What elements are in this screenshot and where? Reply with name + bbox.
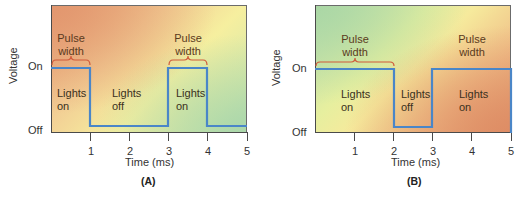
region-text: on	[459, 101, 488, 114]
region-text: off	[112, 100, 141, 113]
pulse-width-text: width	[338, 46, 372, 59]
region-label-lights-off: Lights off	[401, 88, 430, 114]
pulse-width-label: Pulse width	[455, 33, 489, 59]
region-label-lights-on: Lights on	[57, 87, 86, 113]
pulse-width-label: Pulse width	[56, 32, 86, 58]
pulse-width-brace	[316, 58, 394, 66]
pulse-width-text: width	[173, 45, 203, 58]
region-text: Lights	[57, 87, 86, 100]
region-text: Lights	[401, 88, 430, 101]
pulse-width-label: Pulse width	[338, 33, 372, 59]
region-label-lights-on: Lights on	[176, 87, 205, 113]
region-text: on	[57, 100, 86, 113]
region-label-lights-on: Lights on	[459, 88, 488, 114]
region-text: Lights	[112, 87, 141, 100]
region-label-lights-on: Lights on	[341, 88, 370, 114]
region-text: Lights	[459, 88, 488, 101]
pulse-width-text: width	[56, 45, 86, 58]
pulse-width-text: width	[455, 46, 489, 59]
pulse-width-text: Pulse	[338, 33, 372, 46]
pwm-chart-b: Voltage On Off 1 2 3 4 5 Time (ms) (B) P…	[259, 0, 517, 197]
region-text: off	[401, 101, 430, 114]
region-label-lights-off: Lights off	[112, 87, 141, 113]
region-text: Lights	[176, 87, 205, 100]
pwm-chart-a: Voltage On Off 1 2 3 4 5 Time (ms) (A) P…	[0, 0, 258, 197]
region-text: on	[176, 100, 205, 113]
pulse-width-text: Pulse	[173, 32, 203, 45]
region-text: Lights	[341, 88, 370, 101]
region-text: on	[341, 101, 370, 114]
pulse-width-text: Pulse	[56, 32, 86, 45]
pulse-width-label: Pulse width	[173, 32, 203, 58]
pulse-width-text: Pulse	[455, 33, 489, 46]
